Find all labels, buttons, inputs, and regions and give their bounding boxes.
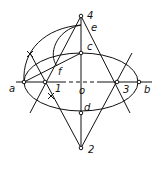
point-1 — [43, 80, 47, 84]
label-d: d — [84, 102, 91, 113]
label-a: a — [9, 83, 15, 94]
point-b — [137, 80, 141, 84]
label-e: e — [91, 22, 97, 33]
point-c — [79, 51, 83, 55]
point-a — [22, 80, 26, 84]
point-d — [79, 111, 83, 115]
point-4 — [79, 14, 83, 18]
label-4: 4 — [87, 10, 93, 21]
label-o: o — [79, 85, 85, 96]
point-3 — [115, 80, 119, 84]
cross-mark-upper — [27, 51, 33, 57]
label-3: 3 — [123, 84, 129, 95]
point-2 — [79, 146, 83, 150]
label-b: b — [144, 84, 150, 95]
label-1: 1 — [55, 83, 61, 94]
ellipse-construction-diagram: 4 e c f a 1 o 3 b d 2 — [0, 0, 163, 169]
label-f: f — [58, 66, 63, 77]
label-2: 2 — [88, 144, 94, 155]
label-c: c — [87, 41, 93, 52]
line-4-to-lower-right — [81, 16, 130, 113]
